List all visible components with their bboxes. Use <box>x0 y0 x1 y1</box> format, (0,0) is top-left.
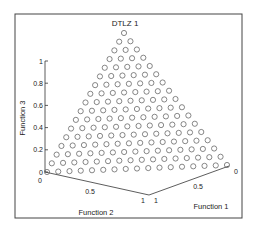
data-point <box>78 168 83 173</box>
data-point <box>117 39 122 44</box>
data-point <box>59 143 64 148</box>
data-point <box>155 89 160 94</box>
data-point <box>128 39 133 44</box>
data-point <box>181 122 186 127</box>
data-point <box>123 166 128 171</box>
y-axis-label: Function 2 <box>78 208 113 217</box>
data-point <box>96 116 101 121</box>
dtlz1-chart: DTLZ 1 00.20.40.60.81 Function 3 0 0.5 1… <box>0 0 254 234</box>
data-point <box>202 163 207 168</box>
data-point <box>134 106 139 111</box>
data-point <box>88 91 93 96</box>
data-point <box>109 133 114 138</box>
data-point <box>207 155 212 160</box>
data-point <box>113 65 118 70</box>
z-axis-label: Function 3 <box>18 100 27 135</box>
data-point <box>78 109 83 114</box>
data-point <box>126 81 131 86</box>
data-point <box>168 105 173 110</box>
data-point <box>107 56 112 61</box>
data-point <box>54 152 59 157</box>
x-tick-1: 1 <box>154 197 158 204</box>
y-tick-0.5: 0.5 <box>85 188 95 195</box>
data-point <box>134 47 139 52</box>
data-point <box>157 106 162 111</box>
data-point <box>110 150 115 155</box>
data-point <box>205 138 210 143</box>
data-point <box>117 99 122 104</box>
data-point <box>152 114 157 119</box>
data-point <box>150 97 155 102</box>
data-point <box>158 122 163 127</box>
data-point <box>101 167 106 172</box>
data-point <box>88 151 93 156</box>
data-point <box>104 142 109 147</box>
data-point <box>166 88 171 93</box>
data-point <box>171 139 176 144</box>
data-point <box>163 114 168 119</box>
data-point <box>149 80 154 85</box>
data-point <box>109 73 114 78</box>
data-point <box>64 135 69 140</box>
data-point <box>118 116 123 121</box>
data-point <box>89 108 94 113</box>
x-tick-0.5: 0.5 <box>193 183 203 190</box>
data-point <box>142 132 147 137</box>
data-point <box>170 122 175 127</box>
data-point <box>176 130 181 135</box>
data-point <box>154 131 159 136</box>
data-point <box>186 113 191 118</box>
data-point <box>141 115 146 120</box>
data-point <box>85 117 90 122</box>
z-tick-label: 0.8 <box>33 80 43 87</box>
data-point <box>213 163 218 168</box>
data-point <box>146 165 151 170</box>
data-point <box>125 124 130 129</box>
y-tick-1: 1 <box>141 197 145 204</box>
data-point <box>93 142 98 147</box>
data-point <box>184 155 189 160</box>
x-tick-0: 0 <box>234 168 238 175</box>
data-point <box>162 156 167 161</box>
data-point <box>138 81 143 86</box>
data-point <box>150 157 155 162</box>
x-axis: 1 0.5 0 Function 1 <box>149 166 238 211</box>
data-point <box>179 105 184 110</box>
data-point <box>123 107 128 112</box>
data-point <box>128 158 133 163</box>
data-point <box>200 146 205 151</box>
data-point <box>120 132 125 137</box>
data-point <box>138 140 143 145</box>
data-point <box>104 82 109 87</box>
data-point <box>147 63 152 68</box>
data-point <box>131 132 136 137</box>
data-point <box>72 160 77 165</box>
data-point <box>125 64 130 69</box>
data-point <box>73 117 78 122</box>
data-point <box>129 56 134 61</box>
data-point <box>83 100 88 105</box>
data-point <box>117 158 122 163</box>
data-point <box>102 125 107 130</box>
data-point <box>97 133 102 138</box>
data-point <box>68 126 73 131</box>
data-point <box>136 123 141 128</box>
data-point <box>187 130 192 135</box>
data-point <box>192 121 197 126</box>
z-tick-label: 1 <box>39 58 43 65</box>
data-point <box>102 65 107 70</box>
data-point <box>134 166 139 171</box>
data-point <box>49 161 54 166</box>
data-point <box>113 124 118 129</box>
data-point <box>93 83 98 88</box>
data-point <box>194 138 199 143</box>
data-point <box>191 164 196 169</box>
data-point <box>75 134 80 139</box>
scatter-points <box>44 30 229 174</box>
data-point <box>212 146 217 151</box>
data-point <box>94 99 99 104</box>
data-point <box>183 139 188 144</box>
data-point <box>195 155 200 160</box>
data-point <box>81 142 86 147</box>
chart-title: DTLZ 1 <box>112 19 139 28</box>
